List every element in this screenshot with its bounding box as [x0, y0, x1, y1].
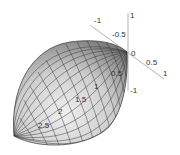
- long-tick-25: 2.5: [38, 121, 50, 130]
- surface-body: [13, 41, 127, 145]
- surface: [13, 39, 128, 148]
- vertical-tick-1: 1: [130, 11, 135, 20]
- surface-plot: 1 -1 -1 -0.5 0 0.5 1 0.5 1 1.5 2 2.5: [0, 0, 180, 155]
- vertical-tick-minus1: -1: [130, 86, 138, 95]
- long-tick-1: 1: [94, 82, 99, 91]
- diagonal-tick-minus1: -1: [94, 16, 102, 25]
- long-tick-15: 1.5: [75, 95, 87, 104]
- diagonal-tick-05: 0.5: [146, 58, 158, 67]
- long-tick-2: 2: [58, 107, 63, 116]
- diagonal-tick-1: 1: [163, 69, 168, 78]
- long-tick-05: 0.5: [111, 69, 123, 78]
- diagonal-tick-minus05: -0.5: [112, 30, 126, 39]
- diagonal-tick-0: 0: [131, 49, 136, 58]
